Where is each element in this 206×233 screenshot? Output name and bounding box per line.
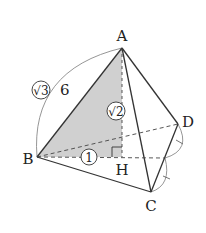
- arc-DM: [165, 124, 183, 158]
- vertex-label-B: B: [22, 150, 33, 168]
- tetrahedron-diagram: √3 6 √2 1 A B C D H: [0, 0, 206, 233]
- vertex-label-A: A: [116, 27, 128, 45]
- vertex-label-D: D: [182, 113, 194, 131]
- segment-BM-hidden: [37, 157, 165, 158]
- label-AB-length: 6: [60, 81, 70, 99]
- point-label-H: H: [115, 161, 128, 179]
- label-sqrt3: √3: [33, 84, 48, 98]
- vertex-label-C: C: [145, 197, 156, 215]
- label-sqrt2: √2: [108, 105, 123, 119]
- tick-DM: [176, 140, 183, 144]
- edge-AD: [122, 48, 178, 124]
- label-BH-ratio: 1: [85, 151, 93, 165]
